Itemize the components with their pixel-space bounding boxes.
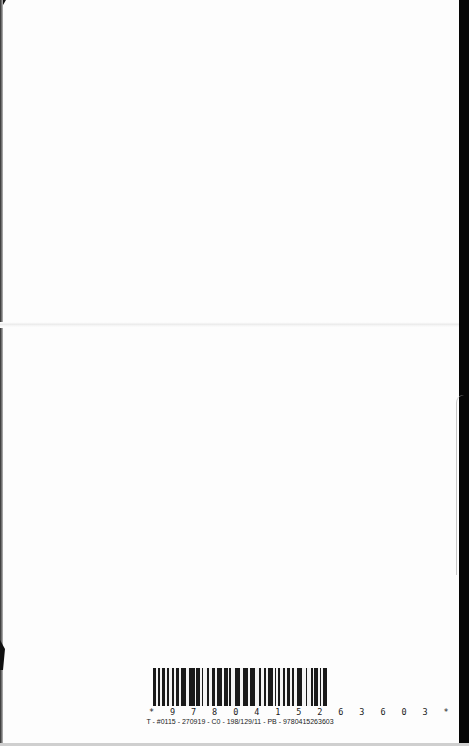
print-code-caption: T - #0115 - 270919 - C0 - 198/129/11 - P…: [145, 718, 335, 725]
left-edge-notch: [0, 640, 5, 670]
barcode-bars: [153, 668, 327, 706]
left-scan-edge: [0, 0, 3, 746]
back-cover-page: * 9 7 8 0 4 1 5 2 6 3 6 0 3 * T - #0115 …: [0, 0, 469, 746]
page-curl-line: [456, 395, 467, 575]
barcode-digits: * 9 7 8 0 4 1 5 2 6 3 6 0 3 *: [149, 707, 331, 717]
right-scan-edge: [459, 0, 469, 746]
fold-crease: [0, 322, 469, 328]
